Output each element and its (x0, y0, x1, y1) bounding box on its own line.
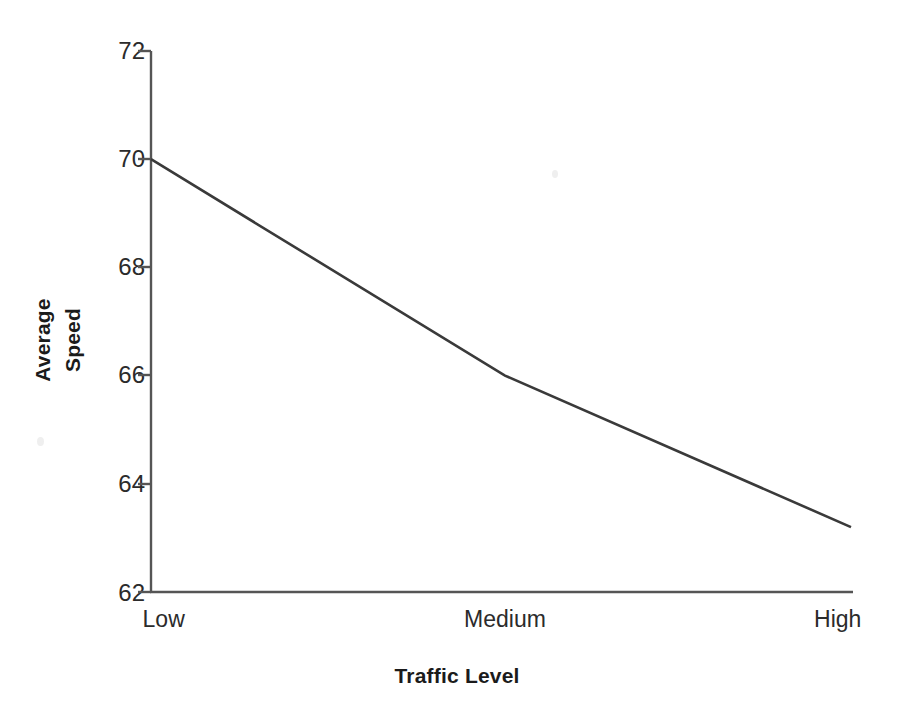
plot-area (0, 0, 914, 708)
y-axis-ticks (138, 51, 151, 592)
chart-figure: Average Speed 72 70 68 66 64 62 Low Medi… (0, 0, 914, 708)
x-axis-title: Traffic Level (0, 664, 914, 688)
x-tick-label: High (814, 608, 861, 631)
x-tick-label: Medium (464, 608, 546, 631)
x-axis-tick-labels: Low Medium High (0, 608, 914, 648)
data-series-line (151, 159, 851, 527)
x-tick-label: Low (143, 608, 185, 631)
